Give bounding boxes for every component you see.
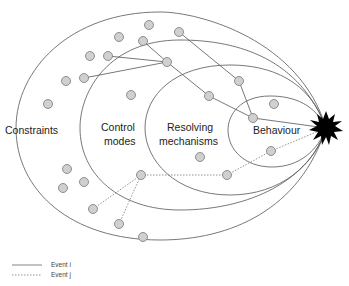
- node: [44, 100, 53, 109]
- legend-event-i-label: Event i: [51, 261, 71, 268]
- resolving-label-1: Resolving: [167, 121, 213, 133]
- event-starburst-icon: [309, 111, 343, 145]
- node: [205, 92, 214, 101]
- control-modes-label-2: modes: [104, 135, 136, 147]
- node: [89, 205, 98, 214]
- control-modes-label-1: Control: [101, 121, 135, 133]
- node: [163, 58, 172, 67]
- node: [86, 52, 95, 61]
- event-nodes: [44, 21, 279, 242]
- node: [127, 91, 136, 100]
- node: [270, 100, 279, 109]
- node: [175, 28, 184, 37]
- node: [249, 114, 258, 123]
- constraints-label: Constraints: [5, 124, 58, 136]
- node: [145, 21, 154, 30]
- node: [104, 52, 113, 61]
- behaviour-label: Behaviour: [253, 124, 301, 136]
- legend-event-j-label: Event j: [51, 271, 71, 279]
- node: [196, 153, 205, 162]
- node: [80, 74, 89, 83]
- node: [235, 77, 244, 86]
- node: [139, 233, 148, 242]
- diagram-canvas: Constraints Control modes Resolving mech…: [0, 0, 349, 286]
- legend: Event i Event j: [12, 261, 71, 279]
- node: [115, 220, 124, 229]
- resolving-label-2: mechanisms: [159, 135, 218, 147]
- node: [115, 33, 124, 42]
- node: [267, 147, 276, 156]
- node: [137, 171, 146, 180]
- node: [62, 77, 71, 86]
- node: [80, 178, 89, 187]
- node: [139, 37, 148, 46]
- node: [63, 165, 72, 174]
- node: [59, 184, 68, 193]
- node: [223, 171, 232, 180]
